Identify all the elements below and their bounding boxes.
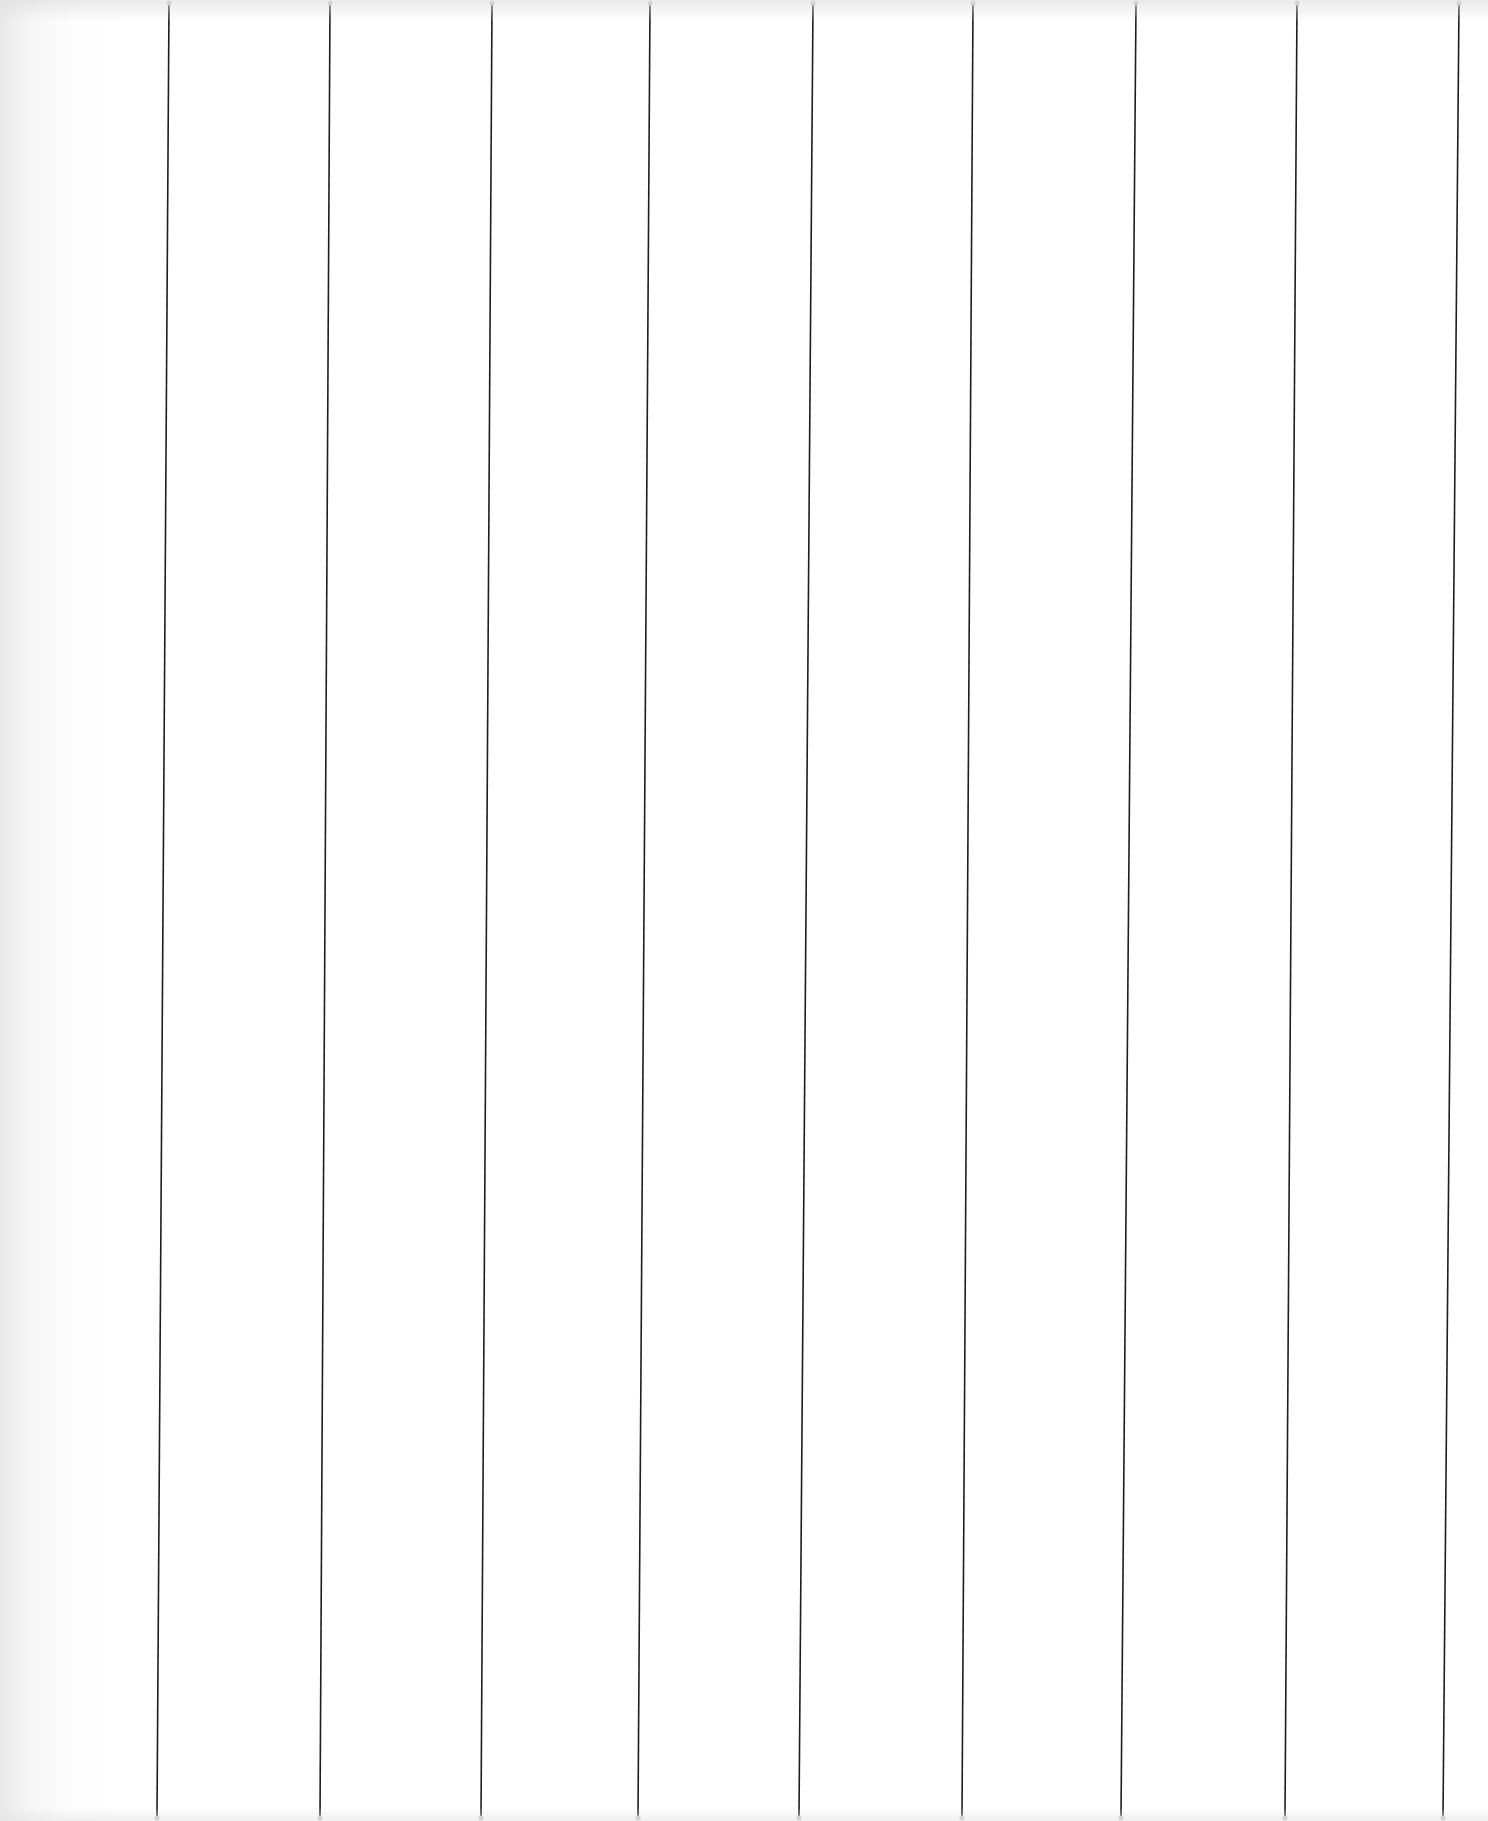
line-end-mark (328, 1, 333, 6)
ruled-line-4 (638, 4, 650, 1817)
ruled-line-2 (320, 4, 330, 1817)
ruled-line-5 (799, 4, 813, 1817)
ruled-line-1 (157, 4, 169, 1817)
line-end-mark (490, 1, 495, 6)
line-end-mark (636, 1816, 641, 1821)
line-end-mark (479, 1816, 484, 1821)
ruled-line-8 (1285, 4, 1297, 1817)
line-end-mark (1283, 1816, 1288, 1821)
ruled-line-7 (1121, 4, 1136, 1817)
line-end-mark (155, 1816, 160, 1821)
ruled-line-6 (962, 4, 973, 1817)
line-end-mark (167, 1, 172, 6)
line-end-mark (960, 1816, 965, 1821)
line-end-mark (797, 1816, 802, 1821)
ruled-line-3 (481, 4, 492, 1817)
ruled-line-9 (1443, 4, 1459, 1817)
line-end-mark (1295, 1, 1300, 6)
line-end-mark (811, 1, 816, 6)
line-end-mark (1134, 1, 1139, 6)
line-end-mark (1119, 1816, 1124, 1821)
line-end-mark (648, 1, 653, 6)
vertical-rules (0, 0, 1488, 1821)
line-end-mark (971, 1, 976, 6)
line-end-mark (1457, 1, 1462, 6)
line-end-mark (318, 1816, 323, 1821)
line-end-mark (1441, 1816, 1446, 1821)
ruled-page (0, 0, 1488, 1821)
